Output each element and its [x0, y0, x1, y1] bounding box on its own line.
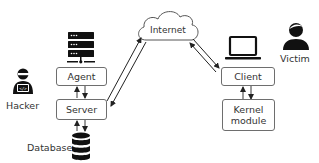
svg-text:</>: </>	[19, 86, 27, 91]
edge-server-database	[77, 120, 85, 131]
laptop-icon	[225, 37, 261, 60]
victim-label: Victim	[280, 53, 310, 64]
agent-node: Agent	[56, 67, 107, 86]
edge-client-kernel	[243, 86, 251, 99]
kernel-module-label-line2: module	[231, 115, 267, 126]
server-node: Server	[56, 99, 107, 120]
server-label: Server	[66, 104, 97, 115]
server-rack-icon	[67, 32, 95, 63]
client-label: Client	[234, 71, 262, 82]
edge-internet-client	[190, 39, 219, 72]
database-icon	[72, 133, 90, 161]
kernel-module-label-line1: Kernel	[234, 104, 264, 115]
client-node: Client	[221, 67, 275, 86]
edge-server-internet	[107, 38, 146, 106]
edge-agent-server	[77, 86, 85, 98]
kernel-module-node: Kernel module	[222, 99, 275, 131]
internet-label: Internet	[150, 25, 186, 35]
person-icon	[283, 23, 309, 50]
agent-label: Agent	[67, 71, 95, 82]
database-label: Database	[27, 142, 72, 153]
hacker-label: Hacker	[6, 100, 39, 111]
hacker-person-icon: </>	[13, 69, 33, 95]
